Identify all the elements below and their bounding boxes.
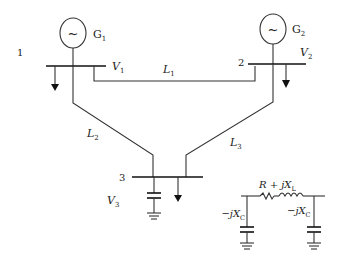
shunt-left-label: −jXC <box>221 208 245 222</box>
bus-1: 1 V1 <box>17 47 124 91</box>
load-arrow-icon <box>282 80 290 88</box>
generator-g2: ~ G2 <box>260 14 305 64</box>
v2-label: V2 <box>300 46 312 61</box>
g2-label: G2 <box>292 23 305 38</box>
bus-2-number: 2 <box>238 57 244 68</box>
l3-label: L3 <box>229 136 242 151</box>
bus-1-number: 1 <box>17 47 23 58</box>
load-arrow-icon <box>174 195 182 202</box>
pi-model: R + jXL −jXC −jXC <box>221 179 325 249</box>
bus-3: 3 V3 <box>107 172 203 219</box>
ac-source-icon: ~ <box>68 26 79 41</box>
inductor-icon <box>279 193 303 196</box>
series-impedance-label: R + jXL <box>258 179 297 193</box>
capacitor-icon <box>147 177 161 213</box>
generator-g1: ~ G1 <box>60 18 106 66</box>
bus-2: 2 V2 <box>238 46 312 88</box>
power-system-diagram: ~ G1 1 V1 L1 ~ G2 2 V2 L2 L3 3 V3 <box>0 0 343 261</box>
v1-label: V1 <box>112 60 124 75</box>
ac-source-icon: ~ <box>268 22 279 37</box>
l1-label: L1 <box>162 63 175 78</box>
line-l2 <box>73 66 153 177</box>
shunt-right-label: −jXC <box>287 205 311 219</box>
ground-icon <box>147 213 161 219</box>
resistor-icon <box>260 193 274 199</box>
bus-3-number: 3 <box>119 172 125 183</box>
g1-label: G1 <box>93 28 106 43</box>
l2-label: L2 <box>86 127 99 142</box>
v3-label: V3 <box>107 194 119 209</box>
load-arrow-icon <box>51 84 59 91</box>
